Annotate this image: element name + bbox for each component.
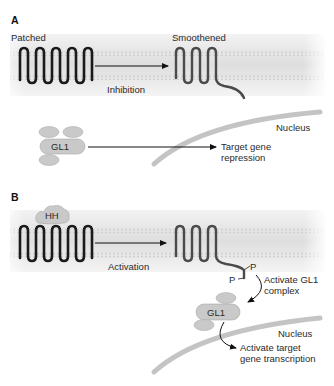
hedgehog-signaling-diagram: A Patched Smoothened Inhibition GL1 Nucl… xyxy=(0,0,334,386)
smoothened-label: Smoothened xyxy=(172,32,226,43)
phosphate-label-1: P xyxy=(250,261,256,272)
activate-gl1-label-1: Activate GL1 xyxy=(264,274,318,285)
activation-label: Activation xyxy=(108,261,149,272)
gl1-complex-b: GL1 xyxy=(194,293,240,331)
panel-a: A Patched Smoothened Inhibition GL1 Nucl… xyxy=(10,14,325,166)
gl1-complex-a: GL1 xyxy=(39,127,85,166)
gl1-label-a: GL1 xyxy=(51,141,69,152)
nucleus-label-b: Nucleus xyxy=(278,328,313,339)
activate-gl1-label-2: complex xyxy=(264,285,300,296)
panel-a-label: A xyxy=(11,14,19,26)
nucleus-label-a: Nucleus xyxy=(276,122,311,133)
activate-gl1-arrow xyxy=(248,275,261,302)
activate-target-label-2: gene transcription xyxy=(240,353,316,364)
patched-label: Patched xyxy=(11,32,46,43)
phosphate-label-2: P xyxy=(229,274,235,285)
hh-ligand-icon: HH xyxy=(36,205,69,224)
target-repression-label-2: repression xyxy=(221,152,265,163)
hh-label: HH xyxy=(45,210,59,221)
panel-b-label: B xyxy=(11,191,19,203)
activate-target-label-1: Activate target xyxy=(240,342,301,353)
gl1-label-b: GL1 xyxy=(207,307,225,318)
panel-b: B HH Activation P P Activate GL1 xyxy=(10,191,325,372)
inhibition-label: Inhibition xyxy=(107,84,145,95)
cell-membrane-a xyxy=(10,34,325,96)
target-repression-label-1: Target gene xyxy=(221,141,271,152)
